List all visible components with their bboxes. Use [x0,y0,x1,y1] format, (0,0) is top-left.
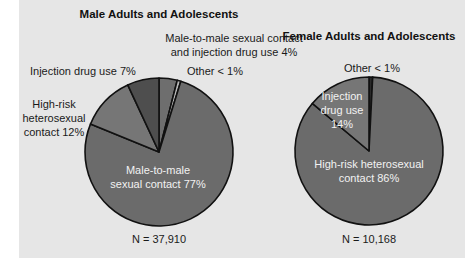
male-pie [85,78,233,226]
male-label-other: Other < 1% [187,65,243,77]
male-chart-title: Male Adults and Adolescents [80,8,239,20]
male-label-idu: Injection drug use 7% [30,65,136,77]
female-label-hetero-line1: High-risk heterosexual [314,158,423,170]
male-label-msm-idu-line2: and injection drug use 4% [171,46,298,58]
female-n-label: N = 10,168 [342,233,396,245]
male-label-hetero-line3: contact 12% [24,126,85,138]
male-label-hetero-line2: heterosexual [23,112,86,124]
female-chart: Female Adults and Adolescents Other < 1%… [283,30,456,245]
male-label-hetero-line1: High-risk [32,98,76,110]
male-label-msm-line2: sexual contact 77% [110,178,206,190]
female-label-idu-line1: Injection [322,90,363,102]
female-label-hetero-line2: contact 86% [339,172,400,184]
female-label-idu-line2: drug use [321,104,364,116]
female-label-other: Other < 1% [344,62,400,74]
male-label-msm-line1: Male-to-male [126,164,190,176]
pie-charts: Male Adults and Adolescents Male-to-male… [0,0,465,258]
female-pie [295,77,443,225]
female-label-idu-line3: 14% [331,118,353,130]
female-chart-title: Female Adults and Adolescents [283,30,456,42]
male-chart: Male Adults and Adolescents Male-to-male… [23,8,303,245]
male-n-label: N = 37,910 [132,233,186,245]
